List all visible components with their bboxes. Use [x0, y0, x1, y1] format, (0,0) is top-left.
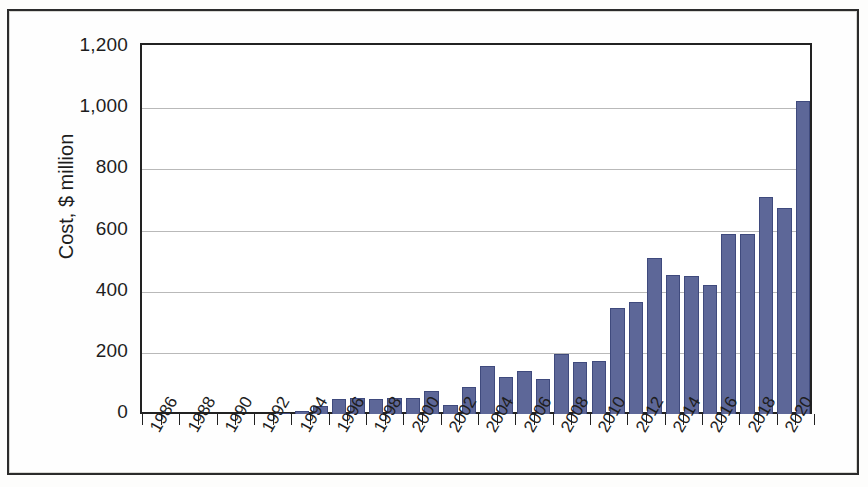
y-tick-label: 1,000	[79, 95, 128, 117]
bar	[759, 197, 773, 414]
x-tick-mark	[590, 414, 591, 425]
bar-slot	[775, 47, 794, 414]
x-tick-mark	[739, 414, 740, 425]
x-tick-mark	[441, 414, 442, 425]
bar	[721, 234, 735, 414]
bar-slot	[385, 47, 404, 414]
bar-slot	[664, 47, 683, 414]
bar-slot	[274, 47, 293, 414]
bar-slot	[571, 47, 590, 414]
bar-slot	[293, 47, 312, 414]
bar-slot	[719, 47, 738, 414]
bar-slot	[701, 47, 720, 414]
x-tick-mark	[665, 414, 666, 425]
bar-slot	[348, 47, 367, 414]
y-axis-tick-labels: 02004006008001,0001,200	[46, 43, 134, 414]
x-tick-mark	[702, 414, 703, 425]
bar-slot	[608, 47, 627, 414]
bar	[796, 101, 810, 414]
bar-slot	[311, 47, 330, 414]
y-tick-label: 0	[117, 401, 128, 423]
x-tick-mark	[627, 414, 628, 425]
bar-slot	[404, 47, 423, 414]
bar-slot	[460, 47, 479, 414]
bar-slot	[330, 47, 349, 414]
x-tick-mark	[478, 414, 479, 425]
bar-slot	[441, 47, 460, 414]
figure: Cost, $ million 02004006008001,0001,200 …	[0, 0, 868, 487]
y-tick-label: 1,200	[79, 34, 128, 56]
x-tick-mark	[329, 414, 330, 425]
bar	[740, 234, 754, 414]
bar	[629, 302, 643, 414]
x-tick-mark	[179, 414, 180, 425]
x-tick-mark	[217, 414, 218, 425]
bar-slot	[534, 47, 553, 414]
bar-slot	[590, 47, 609, 414]
y-tick-label: 400	[96, 279, 128, 301]
bar	[592, 361, 606, 414]
bar-slot	[478, 47, 497, 414]
x-tick-mark	[403, 414, 404, 425]
bar-slot	[497, 47, 516, 414]
x-tick-mark	[291, 414, 292, 425]
bar-slot	[200, 47, 219, 414]
bar-slot	[181, 47, 200, 414]
bar-slot	[645, 47, 664, 414]
bar-slot	[794, 47, 813, 414]
plot-area	[140, 43, 812, 414]
x-tick-mark	[814, 414, 815, 425]
bar	[777, 208, 791, 414]
y-tick-label: 800	[96, 156, 128, 178]
bar-slot	[682, 47, 701, 414]
x-tick-mark	[515, 414, 516, 425]
x-tick-mark	[366, 414, 367, 425]
bar-slot	[255, 47, 274, 414]
bar	[703, 285, 717, 414]
bar-slot	[144, 47, 163, 414]
bar	[554, 354, 568, 414]
bar-slot	[163, 47, 182, 414]
x-tick-mark	[553, 414, 554, 425]
bar	[666, 275, 680, 414]
bar-slot	[552, 47, 571, 414]
bar-slot	[422, 47, 441, 414]
bar-series	[144, 47, 812, 414]
bar-slot	[757, 47, 776, 414]
bar-slot	[738, 47, 757, 414]
x-tick-mark	[142, 414, 143, 425]
bar-slot	[515, 47, 534, 414]
bar-slot	[627, 47, 646, 414]
bar-slot	[367, 47, 386, 414]
bar	[647, 258, 661, 414]
y-tick-label: 600	[96, 218, 128, 240]
bar-slot	[218, 47, 237, 414]
x-tick-mark	[254, 414, 255, 425]
x-axis-tick-labels: 1986198819901992199419961998200020022004…	[142, 426, 810, 484]
bar-slot	[237, 47, 256, 414]
x-tick-mark	[777, 414, 778, 425]
y-tick-label: 200	[96, 340, 128, 362]
